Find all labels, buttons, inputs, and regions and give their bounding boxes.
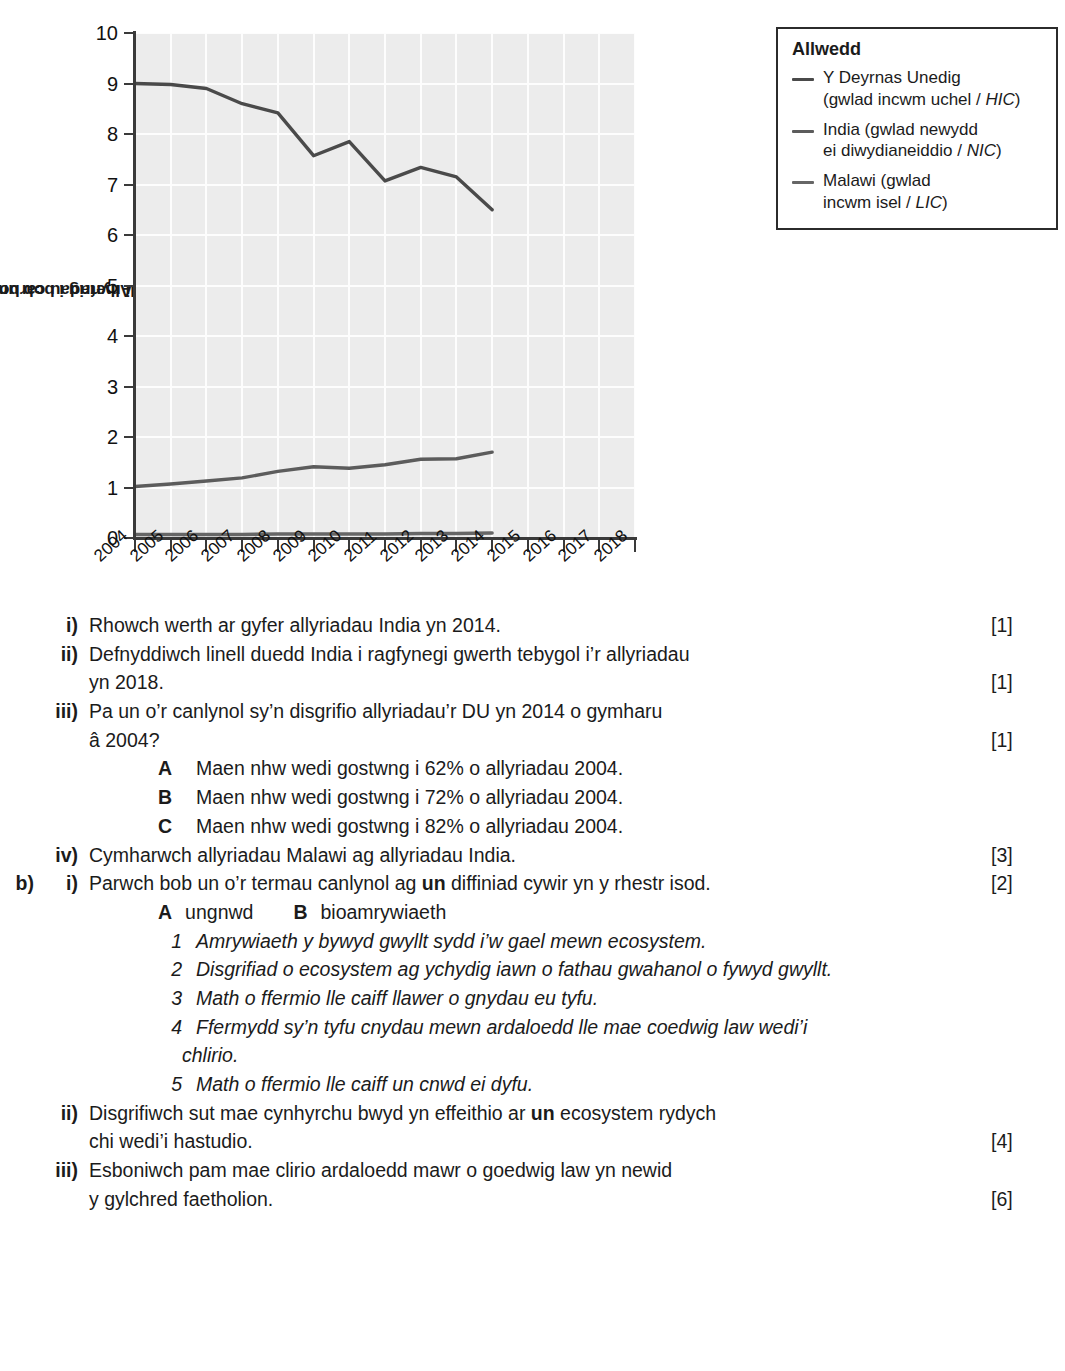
question-a-iii-marks: [1] [987,727,1065,755]
y-axis-tick [124,436,135,438]
legend-entry-1: Y Deyrnas Unedig(gwlad incwm uchel / HIC… [792,67,1044,111]
definition-number: 1 [158,928,182,956]
y-axis-tick-label: 1 [0,478,118,498]
question-b-i-marks: [2] [987,870,1065,898]
question-b-i: b) i) Parwch bob un o’r termau canlynol … [0,870,1065,898]
definition-1: 1Amrywiaeth y bywyd gwyllt sydd i’w gael… [158,928,1065,956]
plot-area [135,33,635,538]
question-b-i-text-after: diffiniad cywir yn y rhestr isod. [446,872,711,894]
question-a-iii-text-line2: â 2004? [78,727,987,755]
question-b-ii-label: ii) [34,1100,78,1128]
question-a-iii-line2: â 2004? [1] [0,727,1065,755]
question-b-iii-label: iii) [34,1157,78,1185]
y-axis-tick [124,32,135,34]
question-a-iv-label: iv) [34,842,78,870]
legend-line-swatch [792,130,814,133]
question-a-ii-marks: [1] [987,669,1065,697]
question-a-iii: iii) Pa un o’r canlynol sy’n disgrifio a… [0,698,1065,726]
question-b-ii-marks: [4] [987,1128,1065,1156]
option-a[interactable]: AMaen nhw wedi gostwng i 62% o allyriada… [158,755,1065,783]
question-b-iii-text: Esboniwch pam mae clirio ardaloedd mawr … [78,1157,987,1185]
y-axis-tick [124,386,135,388]
option-c[interactable]: CMaen nhw wedi gostwng i 82% o allyriada… [158,813,1065,841]
y-axis-tick [124,487,135,489]
y-axis-tick-label: 7 [0,175,118,195]
option-letter: B [158,784,176,812]
definition-3: 3Math o ffermio lle caiff llawer o gnyda… [158,985,1065,1013]
legend-label-line2-suffix: ) [996,141,1002,160]
legend-label-abbrev: LIC [916,193,942,212]
series-line-2 [135,452,492,486]
question-a-ii: ii) Defnyddiwch linell duedd India i rag… [0,641,1065,669]
question-b-iii: iii) Esboniwch pam mae clirio ardaloedd … [0,1157,1065,1185]
question-b-ii-text-before: Disgrifiwch sut mae cynhyrchu bwyd yn ef… [89,1102,531,1124]
y-axis-tick [124,234,135,236]
multiple-choice-options: AMaen nhw wedi gostwng i 62% o allyriada… [0,755,1065,840]
definition-text: Amrywiaeth y bywyd gwyllt sydd i’w gael … [196,928,706,956]
legend-entry-3: Malawi (gwladincwm isel / LIC) [792,170,1044,214]
term-b-text: bioamrywiaeth [321,899,447,927]
question-a-i: i) Rhowch werth ar gyfer allyriadau Indi… [0,612,1065,640]
legend-entry-label: Malawi (gwladincwm isel / LIC) [823,170,948,214]
question-a-i-marks: [1] [987,612,1065,640]
y-axis-tick-label: 2 [0,427,118,447]
y-axis-tick-label: 6 [0,225,118,245]
legend-label-line2-suffix: ) [942,193,948,212]
question-a-ii-text: Defnyddiwch linell duedd India i ragfyne… [78,641,987,669]
option-letter: C [158,813,176,841]
question-b-iii-text-line2: y gylchred faetholion. [78,1186,987,1214]
definition-text: Math o ffermio lle caiff llawer o gnydau… [196,985,598,1013]
question-b-ii-emphasis: un [531,1102,555,1124]
question-a-ii-line2: yn 2018. [1] [0,669,1065,697]
legend-entry-label: Y Deyrnas Unedig(gwlad incwm uchel / HIC… [823,67,1020,111]
question-b-ii-text-line2: chi wedi’i hastudio. [78,1128,987,1156]
legend-label-abbrev: HIC [986,90,1015,109]
question-a-iv: iv) Cymharwch allyriadau Malawi ag allyr… [0,842,1065,870]
legend-title: Allwedd [792,39,1044,60]
legend-label-line1: India (gwlad newydd [823,120,978,139]
term-list: A ungnwd B bioamrywiaeth [158,899,1065,927]
question-a-iii-text: Pa un o’r canlynol sy’n disgrifio allyri… [78,698,987,726]
y-axis-tick-label: 10 [0,23,118,43]
legend-entry-2: India (gwlad newyddei diwydianeiddio / N… [792,119,1044,163]
definition-text: Math o ffermio lle caiff un cnwd ei dyfu… [196,1071,533,1099]
question-b-i-text: Parwch bob un o’r termau canlynol ag un … [78,870,987,898]
definition-5: 5Math o ffermio lle caiff un cnwd ei dyf… [158,1071,1065,1099]
y-axis-tick [124,285,135,287]
definition-text: Ffermydd sy’n tyfu cnydau mewn ardaloedd… [196,1014,807,1042]
question-b-iii-marks: [6] [987,1186,1065,1214]
question-a-ii-text-line2: yn 2018. [78,669,987,697]
x-axis-tick [634,540,636,552]
question-a-i-text: Rhowch werth ar gyfer allyriadau India y… [78,612,987,640]
question-b-label: b) [0,870,34,898]
y-axis-tick-label: 4 [0,326,118,346]
option-b[interactable]: BMaen nhw wedi gostwng i 72% o allyriada… [158,784,1065,812]
question-b-ii-text: Disgrifiwch sut mae cynhyrchu bwyd yn ef… [78,1100,987,1128]
question-b-i-emphasis: un [422,872,446,894]
definition-text: Disgrifiad o ecosystem ag ychydig iawn o… [196,956,832,984]
question-b-ii-text-after: ecosystem rydych [555,1102,716,1124]
legend-entries: Y Deyrnas Unedig(gwlad incwm uchel / HIC… [792,67,1044,214]
option-text: Maen nhw wedi gostwng i 62% o allyriadau… [196,755,623,783]
term-b-letter: B [293,899,307,927]
y-axis-tick-label: 9 [0,74,118,94]
definition-4-line2: chlirio. [0,1042,1065,1070]
y-axis-tick [124,335,135,337]
legend-label-line2-suffix: ) [1015,90,1021,109]
definition-list: 1Amrywiaeth y bywyd gwyllt sydd i’w gael… [0,928,1065,1099]
term-a-letter: A [158,899,172,927]
option-letter: A [158,755,176,783]
legend-label-line1: Y Deyrnas Unedig [823,68,961,87]
term-a-text: ungnwd [185,899,253,927]
y-axis-tick [124,184,135,186]
y-axis-tick [124,83,135,85]
question-b-i-label: i) [34,870,78,898]
question-a-iii-label: iii) [34,698,78,726]
legend-line-swatch [792,181,814,184]
plot-wrapper [135,33,635,538]
legend-line-swatch [792,78,814,81]
question-b-iii-line2: y gylchred faetholion. [6] [0,1186,1065,1214]
question-a-iv-text: Cymharwch allyriadau Malawi ag allyriada… [78,842,987,870]
question-a-iv-marks: [3] [987,842,1065,870]
definition-number: 4 [158,1014,182,1042]
